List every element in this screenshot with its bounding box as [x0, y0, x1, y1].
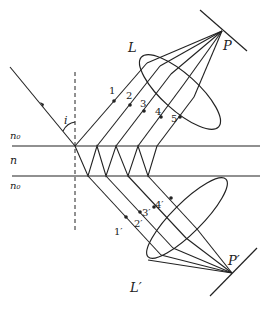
- thin-film-interference-diagram: i 1 2 3 4 5 L P: [0, 0, 265, 311]
- ray-label-3prime: 3′: [142, 207, 151, 218]
- film-internal-reflections: [75, 146, 157, 176]
- angle-label: i: [64, 114, 68, 127]
- transmitted-rays: [88, 176, 232, 273]
- ray-label-1prime: 1′: [114, 226, 123, 237]
- point-P-prime-label: P′: [227, 253, 240, 268]
- reflected-rays: [75, 31, 222, 146]
- medium-film-label: n: [10, 154, 17, 167]
- ray-label-2: 2: [126, 90, 132, 101]
- medium-bottom-label: n₀: [10, 180, 20, 191]
- ray-label-2prime: 2′: [134, 218, 143, 229]
- ray-label-3: 3: [140, 98, 146, 109]
- lens-L-label: L: [127, 40, 137, 55]
- lens-L: [129, 44, 230, 140]
- lens-L-prime-label: L′: [129, 280, 142, 295]
- point-P-label: P: [222, 38, 232, 53]
- ray-label-4: 4: [155, 106, 161, 117]
- ray-label-1: 1: [109, 85, 115, 96]
- medium-top-label: n₀: [10, 130, 20, 141]
- ray-label-4prime: 4′: [155, 199, 164, 210]
- ray-label-5: 5: [171, 113, 177, 124]
